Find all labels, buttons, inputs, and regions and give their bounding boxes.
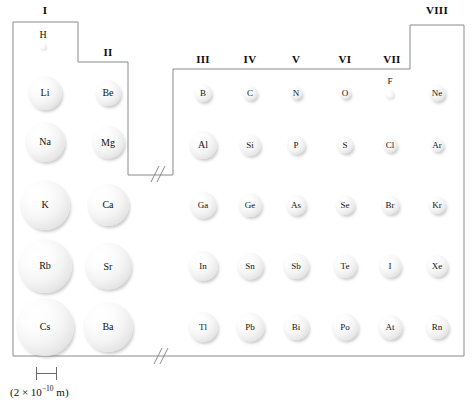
atom-c: C [243,86,258,101]
atom-rn: Rn [425,315,449,339]
atom-rb: Rb [18,239,72,293]
atom-cs: Cs [16,298,74,356]
atom-symbol-xe: Xe [432,262,443,271]
atom-i: I [379,255,402,278]
atom-ge: Ge [238,193,262,217]
atom-f: F [386,91,395,100]
atom-br: Br [381,196,400,215]
atom-symbol-te: Te [341,262,350,271]
atom-symbol-sb: Sb [291,262,301,271]
atom-p: P [287,136,306,155]
atom-symbol-as: As [291,201,301,210]
scale-bar-tick-left [36,367,37,380]
atom-s: S [337,137,354,154]
atom-mg: Mg [92,126,125,159]
atom-symbol-i: I [389,262,392,271]
atom-bi: Bi [283,314,309,340]
break-mark-upper [151,166,165,182]
atom-symbol-be: Be [102,88,113,98]
group-header-viii: VIII [426,4,448,16]
atom-li: Li [28,76,62,110]
atom-ne: Ne [429,85,446,102]
atom-symbol-po: Po [340,323,350,332]
atom-si: Si [239,134,261,156]
group-header-vi: VI [339,53,352,65]
atom-xe: Xe [426,255,448,277]
atom-symbol-pb: Pb [245,323,255,332]
atom-cl: Cl [383,138,398,153]
atom-symbol-ga: Ga [198,201,209,210]
atom-symbol-sn: Sn [245,262,255,271]
atom-symbol-b: B [200,89,206,98]
group-header-i: I [43,4,48,16]
atom-symbol-k: K [41,200,48,210]
atom-symbol-c: C [247,89,253,98]
atom-sb: Sb [283,253,309,279]
atom-symbol-bi: Bi [292,323,301,332]
atom-symbol-li: Li [41,88,50,98]
atom-symbol-ar: Ar [432,141,442,150]
atom-ba: Ba [83,302,133,352]
atom-te: Te [333,254,357,278]
table-outline [0,0,473,409]
atom-al: Al [189,131,217,159]
atom-symbol-tl: Tl [199,323,207,332]
scale-bar-line [36,373,57,374]
atom-be: Be [95,80,121,106]
atom-symbol-at: At [386,323,395,332]
atom-symbol-ba: Ba [102,322,113,332]
atom-o: O [339,87,351,99]
scale-bar-caption: (2 × 10−10 m) [10,384,69,398]
atom-symbol-al: Al [198,140,208,150]
atom-ga: Ga [190,192,217,219]
group-header-iii: III [196,53,210,65]
atom-po: Po [332,314,359,341]
atom-se: Se [335,195,355,215]
atom-h: H [40,44,47,51]
atom-symbol-kr: Kr [432,201,442,210]
atom-ar: Ar [430,138,444,152]
atom-symbol-cl: Cl [386,141,395,150]
atom-sn: Sn [237,253,264,280]
atom-symbol-in: In [199,262,207,271]
atom-symbol-na: Na [39,137,51,147]
periodic-table-figure: IIIIIIIVVVIVIIVIII HLiBeBCNOFNeNaMgAlSiP… [0,0,473,409]
atom-as: As [286,195,307,216]
atom-b: B [194,84,212,102]
atom-pb: Pb [236,313,265,342]
group-header-iv: IV [244,53,257,65]
atom-symbol-si: Si [246,141,254,150]
atom-n: N [290,87,303,100]
atom-symbol-ge: Ge [245,201,256,210]
group-header-ii: II [103,46,112,58]
atom-symbol-ca: Ca [102,200,113,210]
atom-symbol-n: N [293,89,300,98]
atom-symbol-s: S [342,141,347,150]
group-header-vii: VII [383,53,400,65]
atom-ca: Ca [87,184,129,226]
atom-symbol-sr: Sr [104,261,113,271]
atom-symbol-se: Se [341,201,350,210]
atom-symbol-ne: Ne [432,89,443,98]
atom-symbol-rb: Rb [39,261,51,271]
atom-sr: Sr [85,243,132,290]
atom-symbol-br: Br [386,201,395,210]
atom-symbol-o: O [342,89,349,98]
scale-bar [36,367,57,380]
scale-bar-tick-right [56,367,57,380]
atom-in: In [188,251,218,281]
group-header-v: V [292,53,300,65]
atom-symbol-p: P [293,141,298,150]
atom-tl: Tl [188,312,218,342]
atom-k: K [20,180,70,230]
atom-kr: Kr [428,196,446,214]
atom-symbol-cs: Cs [40,322,51,332]
atom-symbol-rn: Rn [432,323,443,332]
atom-symbol-mg: Mg [101,137,115,147]
atom-at: At [378,315,403,340]
atom-na: Na [25,122,65,162]
